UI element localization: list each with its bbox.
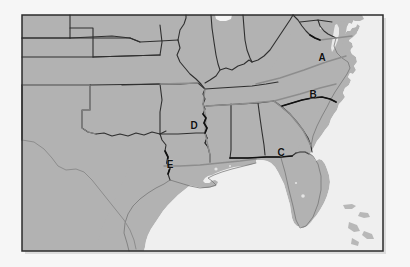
map-label-a: A [318, 52, 325, 63]
highlight-ks-ok-line [160, 83, 198, 84]
map-label-c: C [277, 147, 284, 158]
map-label-d: D [190, 120, 197, 131]
map-label-b: B [309, 89, 316, 100]
map-label-e: E [167, 159, 174, 170]
map-svg: A B C D E [0, 0, 410, 267]
map-figure: A B C D E [0, 0, 410, 267]
